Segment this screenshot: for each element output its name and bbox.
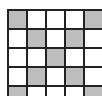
pattern-grid [7, 9, 102, 96]
grid-cell [85, 87, 102, 96]
grid-cell [28, 68, 47, 87]
grid-cell [9, 87, 28, 96]
grid-cell [9, 30, 28, 49]
grid-cell [47, 49, 66, 68]
grid-cell [47, 87, 66, 96]
grid-cell [28, 30, 47, 49]
grid-cell [85, 49, 102, 68]
grid-cell [47, 68, 66, 87]
grid-cell [66, 49, 85, 68]
grid-cell [66, 30, 85, 49]
grid-cell [47, 30, 66, 49]
grid-cell [9, 68, 28, 87]
grid-cell [66, 68, 85, 87]
grid-cell [47, 11, 66, 30]
grid-cell [85, 11, 102, 30]
grid-cell [28, 49, 47, 68]
grid-cell [85, 30, 102, 49]
grid-cell [28, 87, 47, 96]
grid-cell [9, 49, 28, 68]
grid-cell [9, 11, 28, 30]
grid-cell [66, 11, 85, 30]
grid-cell [66, 87, 85, 96]
grid-cell [28, 11, 47, 30]
grid-cell [85, 68, 102, 87]
